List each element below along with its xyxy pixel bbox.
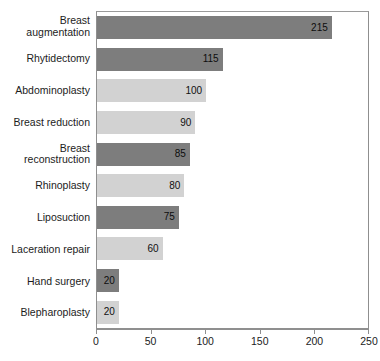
x-axis-tick bbox=[314, 329, 315, 334]
bar: 20 bbox=[97, 301, 119, 324]
bar: 115 bbox=[97, 48, 223, 71]
category-label: Breast reconstruction bbox=[0, 138, 93, 170]
bars-container: 21511510090858075602020 bbox=[97, 12, 368, 328]
bar-row: 100 bbox=[97, 75, 368, 107]
bar: 80 bbox=[97, 174, 184, 197]
category-label: Breast reduction bbox=[0, 106, 93, 138]
category-label: Rhinoplasty bbox=[0, 170, 93, 202]
bar-value-label: 100 bbox=[186, 86, 203, 96]
bar-value-label: 75 bbox=[164, 212, 175, 222]
category-label: Abdominoplasty bbox=[0, 75, 93, 107]
category-label: Blepharoplasty bbox=[0, 297, 93, 329]
bar-value-label: 85 bbox=[175, 149, 186, 159]
bar: 90 bbox=[97, 111, 195, 134]
x-axis-tick-label: 200 bbox=[306, 335, 324, 347]
bar-value-label: 60 bbox=[147, 244, 158, 254]
bar-value-label: 215 bbox=[311, 23, 328, 33]
plot-area: 21511510090858075602020 bbox=[96, 11, 369, 329]
bar-row: 20 bbox=[97, 265, 368, 297]
bar: 215 bbox=[97, 16, 332, 39]
category-label: Breast augmentation bbox=[0, 11, 93, 43]
x-axis-tick bbox=[96, 329, 97, 334]
category-axis-labels: Breast augmentationRhytidectomyAbdominop… bbox=[0, 11, 93, 329]
bar-value-label: 115 bbox=[203, 54, 219, 64]
x-axis-line bbox=[96, 329, 369, 330]
bar: 85 bbox=[97, 143, 190, 166]
x-axis-tick-label: 0 bbox=[93, 335, 99, 347]
x-axis-tick-label: 50 bbox=[145, 335, 157, 347]
bar-row: 115 bbox=[97, 44, 368, 76]
bar-row: 85 bbox=[97, 138, 368, 170]
category-label: Laceration repair bbox=[0, 234, 93, 266]
category-label: Liposuction bbox=[0, 202, 93, 234]
bar-row: 75 bbox=[97, 202, 368, 234]
x-axis-tick-label: 150 bbox=[251, 335, 269, 347]
bar-value-label: 90 bbox=[180, 118, 191, 128]
bar-value-label: 80 bbox=[169, 181, 180, 191]
x-axis-tick bbox=[260, 329, 261, 334]
bar: 20 bbox=[97, 269, 119, 292]
x-axis: 050100150200250 bbox=[96, 329, 369, 355]
bar-chart: Breast augmentationRhytidectomyAbdominop… bbox=[0, 0, 380, 361]
figure-caption-clipped bbox=[12, 353, 242, 361]
x-axis-tick bbox=[151, 329, 152, 334]
bar-row: 90 bbox=[97, 107, 368, 139]
x-axis-tick-label: 250 bbox=[360, 335, 378, 347]
bar: 100 bbox=[97, 79, 206, 102]
bar-row: 60 bbox=[97, 233, 368, 265]
bar-row: 20 bbox=[97, 296, 368, 328]
x-axis-tick bbox=[368, 329, 369, 334]
bar-value-label: 20 bbox=[104, 307, 115, 317]
x-axis-tick-label: 100 bbox=[196, 335, 214, 347]
category-label: Rhytidectomy bbox=[0, 43, 93, 75]
bar-row: 80 bbox=[97, 170, 368, 202]
bar-row: 215 bbox=[97, 12, 368, 44]
x-axis-tick bbox=[205, 329, 206, 334]
bar: 75 bbox=[97, 206, 179, 229]
category-label: Hand surgery bbox=[0, 265, 93, 297]
bar: 60 bbox=[97, 237, 163, 260]
bar-value-label: 20 bbox=[104, 276, 115, 286]
